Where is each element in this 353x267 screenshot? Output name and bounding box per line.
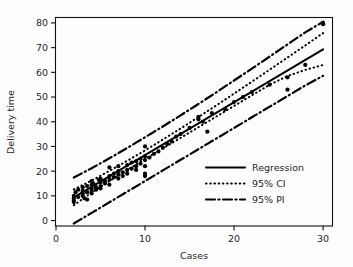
x-axis-title: Cases <box>180 250 208 261</box>
x-tick-label: 20 <box>228 233 240 244</box>
data-point <box>205 130 209 134</box>
data-point <box>196 115 200 119</box>
y-tick-label: 40 <box>36 116 48 127</box>
data-point <box>85 184 89 188</box>
data-point <box>107 165 111 169</box>
data-point <box>134 164 138 168</box>
data-point <box>98 176 102 180</box>
y-tick-label: 10 <box>36 190 48 201</box>
data-point <box>143 174 147 178</box>
chart-canvas: 01020304050607080 0102030 Cases Delivery… <box>0 0 353 267</box>
data-point <box>321 21 325 25</box>
y-tick-label: 50 <box>36 91 48 102</box>
data-point <box>116 169 120 173</box>
data-point <box>161 146 165 150</box>
data-point <box>121 174 125 178</box>
y-tick-label: 0 <box>42 215 48 226</box>
data-point <box>116 164 120 168</box>
data-point <box>107 178 111 182</box>
data-point <box>179 132 183 136</box>
data-point <box>98 186 102 190</box>
x-tick-label: 10 <box>139 233 151 244</box>
x-tick-label: 30 <box>317 233 329 244</box>
data-point <box>165 142 169 146</box>
data-point <box>134 159 138 163</box>
data-point <box>143 144 147 148</box>
data-point <box>134 168 138 172</box>
data-point <box>143 158 147 162</box>
data-point <box>98 180 102 184</box>
data-point <box>90 186 94 190</box>
data-point <box>125 172 129 176</box>
data-point <box>130 167 134 171</box>
x-tick-label: 0 <box>53 233 59 244</box>
data-point <box>210 111 214 115</box>
legend-label-ci: 95% CI <box>252 178 286 189</box>
data-point <box>81 189 85 193</box>
data-point <box>223 107 227 111</box>
legend-label-regression: Regression <box>252 162 304 173</box>
data-point <box>91 181 95 185</box>
data-point <box>112 175 116 179</box>
data-point <box>187 126 191 130</box>
scatter-plot-chart: 01020304050607080 0102030 Cases Delivery… <box>0 0 353 267</box>
data-point <box>241 95 245 99</box>
data-point <box>90 191 94 195</box>
y-tick-label: 30 <box>36 141 48 152</box>
data-point <box>72 194 76 198</box>
data-point <box>85 190 89 194</box>
data-point <box>174 134 178 138</box>
data-point <box>130 160 134 164</box>
data-point <box>116 173 120 177</box>
y-tick-label: 70 <box>36 42 48 53</box>
data-point <box>138 157 142 161</box>
data-point <box>152 152 156 156</box>
y-axis-title: Delivery time <box>5 90 16 154</box>
data-point <box>143 154 147 158</box>
data-point <box>285 75 289 79</box>
data-point <box>250 90 254 94</box>
data-point <box>121 170 125 174</box>
legend-label-pi: 95% PI <box>252 194 285 205</box>
data-point <box>125 168 129 172</box>
chart-background <box>0 0 353 267</box>
data-point <box>268 83 272 87</box>
data-point <box>201 120 205 124</box>
data-point <box>156 149 160 153</box>
data-point <box>147 155 151 159</box>
data-point <box>94 188 98 192</box>
y-tick-label: 60 <box>36 67 48 78</box>
data-point <box>103 179 107 183</box>
y-tick-label: 20 <box>36 166 48 177</box>
data-point <box>81 185 85 189</box>
y-tick-label: 80 <box>36 17 48 28</box>
data-point <box>112 172 116 176</box>
data-point <box>76 188 80 192</box>
data-point <box>85 197 89 201</box>
data-point <box>143 164 147 168</box>
data-point <box>125 163 129 167</box>
data-point <box>107 183 111 187</box>
data-point <box>72 200 76 204</box>
data-point <box>116 176 120 180</box>
data-point <box>170 139 174 143</box>
data-point <box>303 63 307 67</box>
data-point <box>285 88 289 92</box>
data-point <box>107 174 111 178</box>
data-point <box>232 100 236 104</box>
data-point <box>138 162 142 166</box>
data-point <box>76 195 80 199</box>
